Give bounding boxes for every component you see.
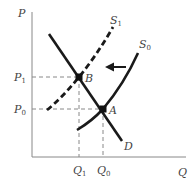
q1-label: Q1: [73, 164, 87, 178]
x-axis-label: Q: [178, 166, 187, 179]
demand-label: D: [123, 140, 133, 153]
shift-arrow-left-icon: [105, 63, 114, 72]
point-b-label: B: [84, 72, 93, 85]
equilibrium-point-a: [100, 106, 107, 113]
p0-label: P0: [13, 103, 26, 117]
s1-label: S1: [110, 14, 122, 28]
equilibrium-point-b: [76, 74, 83, 81]
supply-demand-diagram: P Q B A D S0 S1 P1 P0 Q1 Q0: [0, 0, 194, 188]
q0-label: Q0: [97, 164, 111, 178]
point-a-label: A: [108, 104, 117, 117]
p1-label: P1: [13, 71, 26, 85]
s0-label: S0: [139, 38, 151, 52]
supply-curve-s1: [47, 27, 113, 110]
y-axis-label: P: [17, 7, 26, 20]
